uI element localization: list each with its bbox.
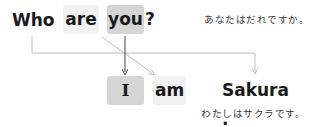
question-mark: ? (144, 5, 156, 34)
question-translation: あなたはだれですか。 (204, 12, 309, 26)
word-are: are (63, 5, 99, 34)
are-to-am-connector (102, 37, 152, 73)
word-am: am (153, 76, 186, 105)
answer-translation: わたしはサクラです。 (201, 106, 305, 120)
word-who: Who (12, 6, 54, 35)
who-to-sakura-connector (32, 36, 255, 71)
word-i: I (107, 76, 144, 105)
word-you: you (107, 5, 144, 34)
